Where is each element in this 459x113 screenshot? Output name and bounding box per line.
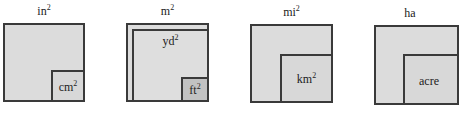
square-acre: acre [403,54,459,105]
title-base: ha [404,6,415,20]
label-base: acre [419,74,439,88]
panel-title-ha: ha [375,6,445,21]
label-acre: acre [405,74,453,89]
